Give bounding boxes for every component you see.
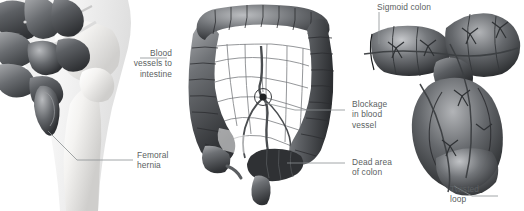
panel-femoral-hernia: Blood vessels to intestine Femoral herni…: [0, 0, 175, 211]
ischemia-shading: [218, 128, 267, 154]
descending-colon: [289, 19, 334, 165]
label-twisted-loop: Twisted loop: [450, 184, 510, 205]
label-blood-vessels-to-intestine: Blood vessels to intestine: [116, 48, 172, 79]
anatomy-figure: Blood vessels to intestine Femoral herni…: [0, 0, 524, 211]
label-sigmoid-colon: Sigmoid colon: [377, 2, 467, 12]
sigmoid-and-rectum-dead-area: [247, 149, 303, 205]
panel-sigmoid-volvulus: Sigmoid colon Twisted loop: [350, 0, 524, 211]
distended-loop: [412, 78, 503, 196]
femoral-hernia-illustration: [0, 0, 175, 211]
colon-illustration: [175, 0, 350, 211]
rectum: [251, 176, 270, 206]
volvulus-illustration: [350, 0, 524, 211]
panel-colon-ischemia: Blockage in blood vessel Dead area of co…: [175, 0, 350, 211]
appendix: [227, 166, 241, 178]
